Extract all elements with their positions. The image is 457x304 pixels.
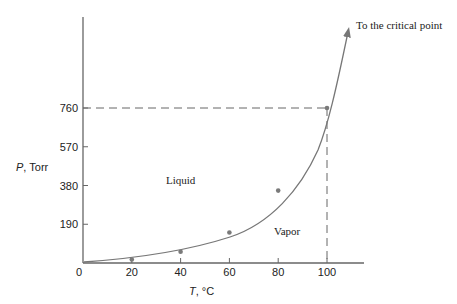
critical-point-annotation: To the critical point xyxy=(356,19,442,31)
y-axis-label: P, Torr xyxy=(16,161,49,173)
y-tick-label: 760 xyxy=(60,102,78,114)
data-point xyxy=(130,257,135,262)
x-tick-label: 60 xyxy=(223,266,235,278)
y-tick-label: 0 xyxy=(76,266,82,278)
x-tick-label: 40 xyxy=(174,266,186,278)
x-tick-label: 100 xyxy=(318,266,336,278)
y-ticks: 0190380570760 xyxy=(60,102,88,278)
x-tick-label: 80 xyxy=(272,266,284,278)
liquid-label: Liquid xyxy=(166,174,196,186)
y-tick-label: 380 xyxy=(60,180,78,192)
x-ticks: 20406080100 xyxy=(126,258,337,278)
x-tick-label: 20 xyxy=(126,266,138,278)
data-point xyxy=(325,106,330,111)
vapor-label: Vapor xyxy=(274,225,301,237)
data-point xyxy=(178,249,183,254)
data-point xyxy=(227,230,232,235)
y-tick-label: 570 xyxy=(60,141,78,153)
y-tick-label: 190 xyxy=(60,218,78,230)
vapor-pressure-curve xyxy=(84,32,348,262)
vapor-pressure-chart: 0190380570760 20406080100 To the critica… xyxy=(0,0,457,304)
data-point xyxy=(276,188,281,193)
x-axis-label: T, °C xyxy=(189,285,214,297)
